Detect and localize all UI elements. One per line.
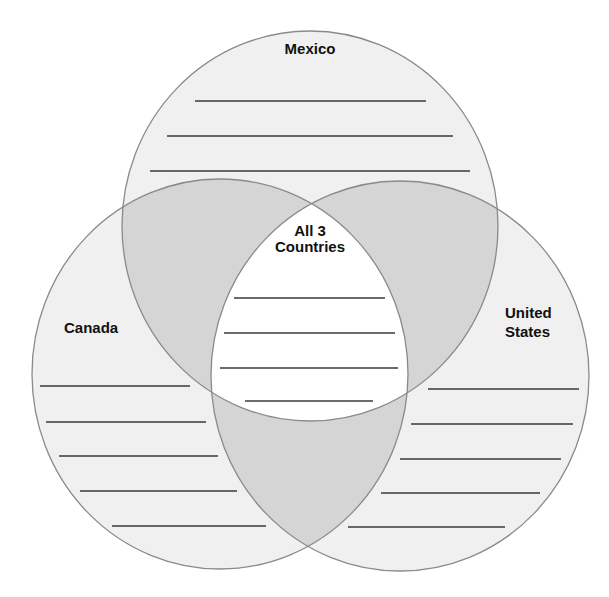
united-states-label-line1: United: [505, 304, 552, 321]
venn-diagram: Mexico Canada United States All 3 Countr…: [0, 0, 609, 597]
center-label-line1: All 3: [294, 222, 326, 239]
center-label-line2: Countries: [275, 238, 345, 255]
mexico-label: Mexico: [285, 40, 336, 57]
canada-label: Canada: [64, 319, 119, 336]
united-states-label-line2: States: [505, 323, 550, 340]
